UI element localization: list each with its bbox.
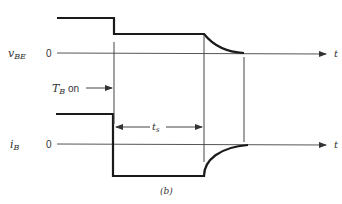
vbe-time-axis (57, 53, 326, 54)
vbe-label: vBE (8, 47, 26, 61)
ib-time-axis-label: t (334, 139, 339, 150)
vbe-plot: vBE 0 t (8, 18, 339, 61)
ib-time-axis (57, 144, 326, 145)
tb-on-annotation: TB on (52, 82, 112, 96)
figure-caption: (b) (160, 186, 173, 196)
vbe-zero-label: 0 (46, 48, 52, 59)
ib-zero-label: 0 (46, 139, 52, 150)
ib-label: iB (10, 138, 20, 152)
ib-plot: iB 0 t (10, 114, 339, 176)
ts-annotation: ts (116, 121, 202, 134)
vbe-time-axis-label: t (334, 48, 339, 59)
switching-waveform-diagram: vBE 0 t iB 0 t TB on ts (b) (0, 0, 342, 204)
ts-label: ts (152, 121, 160, 134)
vbe-waveform (57, 18, 244, 53)
tb-on-label: TB on (52, 82, 79, 96)
